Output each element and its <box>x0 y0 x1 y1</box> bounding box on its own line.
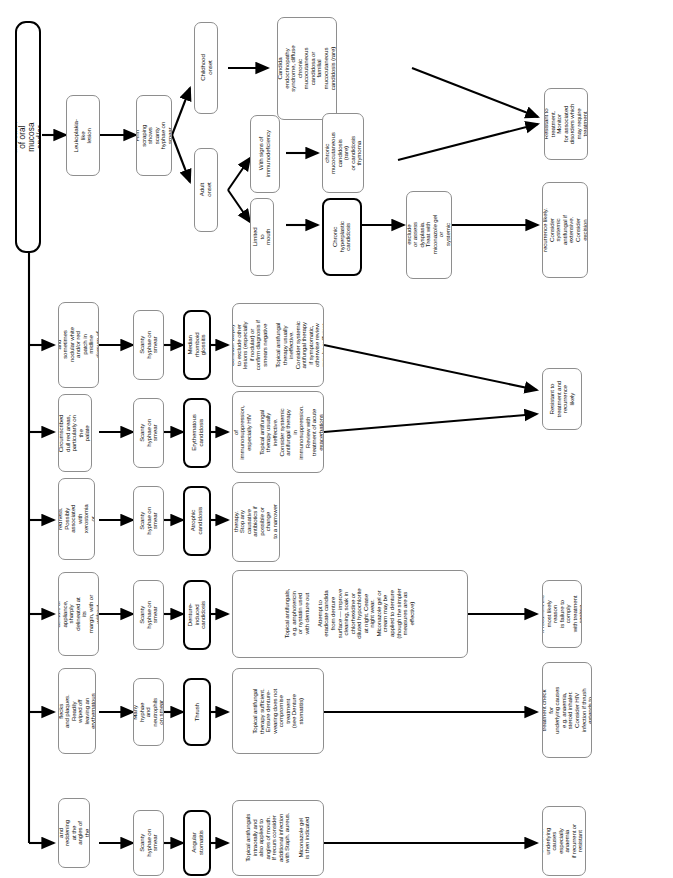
node-adult-onset[interactable]: Adult onset <box>194 148 218 232</box>
node-candida-endocrinopathy-label: Candida endocrinopathy syndrome, diffuse… <box>277 40 336 98</box>
node-management-erythematous-label: Highly suggestive of immunosuppression, … <box>232 393 324 471</box>
node-smear-angular-stomatitis-label: Scanty hyphae on smear <box>139 829 159 858</box>
node-smear-atrophic-label: Scanty hyphae on smear <box>139 507 159 536</box>
outcome-resistant-recurrence-label: Resistant to treatment and recurrence li… <box>549 380 575 418</box>
node-management-atrophic-label: Topical antifungal therapy. Stop any cau… <box>232 499 280 545</box>
node-management-thrush[interactable]: Topical antifungal therapy sufficient. E… <box>232 668 324 754</box>
outcome-angular-stomatitis-label: Check for underlying causes especially a… <box>542 820 586 862</box>
node-management-thrush-label: Topical antifungal therapy sufficient. E… <box>252 669 305 753</box>
outcome-denture-induced-label: If recurrent the most likely reason is f… <box>542 595 582 633</box>
node-smear-median-rhomboid-label: Scanty hyphae on smear <box>139 331 159 360</box>
node-late-onset-chronic-mucocutaneous[interactable]: Late onset chronic mucocutaneous candido… <box>322 113 364 193</box>
outcome-thrush[interactable]: If recurrent or resistant to treatment c… <box>542 662 592 758</box>
node-smear-erythematous-label: Scanty hyphae on smear <box>139 419 159 448</box>
node-adult-onset-label: Adult onset <box>199 179 212 201</box>
node-management-denture-induced[interactable]: Topical antifungals, e.g. amphotericin o… <box>232 570 468 658</box>
node-childhood-onset-label: Childhood onset <box>199 55 212 82</box>
node-chronic-hyperplastic-candidosis[interactable]: Chronic hyperplastic candidosis <box>322 198 362 276</box>
outcome-chronic-hyperplastic[interactable]: Resistant to treatment and recurrence li… <box>542 182 588 278</box>
node-diagnosis-atrophic[interactable]: Atrophic candidosis <box>183 486 211 556</box>
node-smear-erythematous[interactable]: Scanty hyphae on smear <box>133 398 164 468</box>
node-late-onset-chronic-mucocutaneous-label: Late onset chronic mucocutaneous candido… <box>322 132 364 174</box>
outcome-resistant-recurrence[interactable]: Resistant to treatment and recurrence li… <box>542 368 582 430</box>
outcome-top-right-monitor-label: Resistant to treatment. Monitor for asso… <box>544 103 588 145</box>
node-presentation-median-rhomboid-label: Depapillated and sometimes nodular white… <box>58 326 99 365</box>
node-with-immunodeficiency[interactable]: With signs of immunodeficiency <box>250 115 280 193</box>
node-leukoplakia-lesion-label: Leukoplakia-like lesion <box>73 119 93 152</box>
outcome-denture-induced[interactable]: If recurrent the most likely reason is f… <box>542 580 582 648</box>
node-presentation-denture-induced-label: Red area beneath denture or appliance, s… <box>58 595 99 634</box>
node-management-erythematous[interactable]: Highly suggestive of immunosuppression, … <box>232 391 324 473</box>
node-diagnosis-denture-induced[interactable]: Denture-induced candidosis <box>183 580 211 650</box>
flowchart-canvas: Candidal infection of oral mucosa and/or… <box>0 0 673 878</box>
node-smear-median-rhomboid[interactable]: Scanty hyphae on smear <box>133 310 164 380</box>
node-presentation-erythematous[interactable]: Circumscribed dull red areas, particular… <box>58 394 92 472</box>
node-candida-endocrinopathy[interactable]: Candida endocrinopathy syndrome, diffuse… <box>277 17 337 120</box>
node-presentation-denture-induced[interactable]: Red area beneath denture or appliance, s… <box>58 572 99 656</box>
node-presentation-atrophic[interactable]: Generalised mucosal redness. Possibly as… <box>58 478 95 560</box>
node-firm-scraping-label: Firm scraping shows scanty hyphae on sme… <box>136 119 172 153</box>
node-childhood-onset[interactable]: Childhood onset <box>194 22 218 114</box>
node-presentation-atrophic-label: Generalised mucosal redness. Possibly as… <box>58 502 95 537</box>
node-diagnosis-median-rhomboid[interactable]: Median rhomboid glossitis <box>183 310 211 380</box>
node-management-denture-induced-label: Topical antifungals, e.g. amphotericin o… <box>284 572 415 656</box>
node-smear-angular-stomatitis[interactable]: Scanty hyphae on smear <box>133 810 164 876</box>
node-management-atrophic[interactable]: Topical antifungal therapy. Stop any cau… <box>232 482 280 562</box>
node-firm-scraping[interactable]: Firm scraping shows scanty hyphae on sme… <box>136 95 172 176</box>
node-smear-atrophic[interactable]: Scanty hyphae on smear <box>133 486 164 556</box>
node-leukoplakia-lesion[interactable]: Leukoplakia-like lesion <box>66 95 100 176</box>
outcome-chronic-hyperplastic-label: Resistant to treatment and recurrence li… <box>542 208 588 252</box>
outcome-angular-stomatitis[interactable]: Check for underlying causes especially a… <box>542 806 586 876</box>
node-smear-thrush[interactable]: Many hyphae and neutrophils on smear <box>133 678 164 746</box>
node-diagnosis-median-rhomboid-label: Median rhomboid glossitis <box>187 333 207 358</box>
node-biopsy-exclude-dysplasia[interactable]: Biopsy to exclude or assess dysplasia. T… <box>406 191 452 279</box>
node-management-angular-stomatitis-label: Topical antifungals intraorally and also… <box>245 801 311 875</box>
node-management-angular-stomatitis[interactable]: Topical antifungals intraorally and also… <box>232 800 324 876</box>
node-diagnosis-angular-stomatitis[interactable]: Angular stomatitis <box>183 810 211 876</box>
node-biopsy-exclude-dysplasia-label: Biopsy to exclude or assess dysplasia. T… <box>406 213 452 257</box>
node-smear-denture-induced-label: Scanty hyphae on smear <box>139 601 159 630</box>
node-limited-to-mouth[interactable]: Limited to mouth <box>250 198 274 276</box>
root-node[interactable]: Candidal infection of oral mucosa and/or… <box>15 21 41 253</box>
node-diagnosis-erythematous-label: Erythematous candidosis <box>190 415 203 451</box>
node-diagnosis-atrophic-label: Atrophic candidosis <box>190 507 203 535</box>
node-management-median-rhomboid-label: Consider biopsy to exclude other lesions… <box>232 305 324 385</box>
outcome-top-right-monitor[interactable]: Resistant to treatment. Monitor for asso… <box>544 88 588 160</box>
node-smear-thrush-label: Many hyphae and neutrophils on smear <box>133 698 164 727</box>
node-presentation-angular-stomatitis[interactable]: Cracking and reddening at the angles of … <box>58 798 90 868</box>
root-node-label: Candidal infection of oral mucosa and/or… <box>15 120 41 153</box>
node-management-median-rhomboid[interactable]: Consider biopsy to exclude other lesions… <box>232 303 324 387</box>
node-with-immunodeficiency-label: With signs of immunodeficiency <box>258 130 271 177</box>
node-diagnosis-thrush[interactable]: Thrush <box>183 678 211 746</box>
node-chronic-hyperplastic-candidosis-label: Chronic hyperplastic candidosis <box>332 219 352 255</box>
node-presentation-thrush-label: Soft white flecks and plaques. Readily w… <box>58 693 96 729</box>
node-presentation-median-rhomboid[interactable]: Depapillated and sometimes nodular white… <box>58 302 99 388</box>
node-smear-denture-induced[interactable]: Scanty hyphae on smear <box>133 580 164 650</box>
node-presentation-erythematous-label: Circumscribed dull red areas, particular… <box>59 414 92 452</box>
node-diagnosis-denture-induced-label: Denture-induced candidosis <box>187 601 207 629</box>
node-diagnosis-erythematous[interactable]: Erythematous candidosis <box>183 398 211 468</box>
node-presentation-angular-stomatitis-label: Cracking and reddening at the angles of … <box>58 818 90 848</box>
outcome-thrush-label: If recurrent or resistant to treatment c… <box>542 686 592 734</box>
node-limited-to-mouth-label: Limited to mouth <box>252 226 272 248</box>
node-presentation-thrush[interactable]: Soft white flecks and plaques. Readily w… <box>58 668 96 754</box>
node-diagnosis-thrush-label: Thrush <box>194 700 201 724</box>
node-diagnosis-angular-stomatitis-label: Angular stomatitis <box>190 831 203 856</box>
